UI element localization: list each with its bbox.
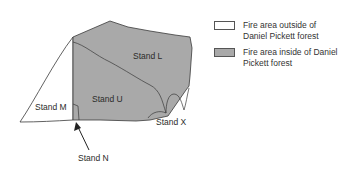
stand-n-label: Stand N xyxy=(78,153,109,163)
stand-x-label: Stand X xyxy=(156,117,186,127)
inside-forest-region xyxy=(73,21,192,121)
legend-item-outside: Fire area outside of Daniel Pickett fore… xyxy=(214,20,338,42)
legend-swatch-outside xyxy=(214,21,235,30)
legend-label-inside: Fire area inside of Daniel Pickett fores… xyxy=(243,47,338,69)
arrow-head-icon xyxy=(74,122,81,131)
stand-n-arrow-line xyxy=(78,127,89,150)
stand-l-label: Stand L xyxy=(133,51,162,61)
legend-swatch-inside xyxy=(214,48,235,57)
stand-u-label: Stand U xyxy=(92,94,123,104)
legend-item-inside: Fire area inside of Daniel Pickett fores… xyxy=(214,47,338,69)
legend-label-outside: Fire area outside of Daniel Pickett fore… xyxy=(243,20,338,42)
stand-m-label: Stand M xyxy=(35,102,67,112)
